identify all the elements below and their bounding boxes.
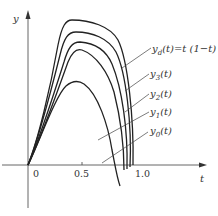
curve-y1 (28, 50, 124, 171)
x-axis-label: t (200, 173, 205, 184)
leader-y2 (125, 94, 149, 112)
leader-lines (98, 48, 151, 163)
iteration-curves-figure: y t 0 0.5 1.0 yd(t)=t (1−t) y3(t) y2(t) … (0, 0, 218, 216)
tick-label-0-5: 0.5 (74, 168, 89, 179)
label-y3: y3(t) (149, 68, 172, 82)
curves (28, 20, 133, 186)
leader-y1 (98, 112, 149, 140)
origin-label: 0 (33, 168, 39, 179)
y-axis-label: y (12, 13, 19, 24)
x-axis-arrow-icon (199, 163, 207, 168)
label-y2: y2(t) (149, 88, 172, 102)
label-y1: y1(t) (149, 106, 172, 120)
y-axis-arrow-icon (26, 10, 31, 19)
leader-yd (122, 48, 151, 68)
label-y0: y0(t) (149, 125, 172, 139)
curve-y3 (28, 32, 130, 167)
label-yd: yd(t)=t (1−t) (151, 43, 216, 57)
tick-label-1-0: 1.0 (135, 168, 150, 179)
